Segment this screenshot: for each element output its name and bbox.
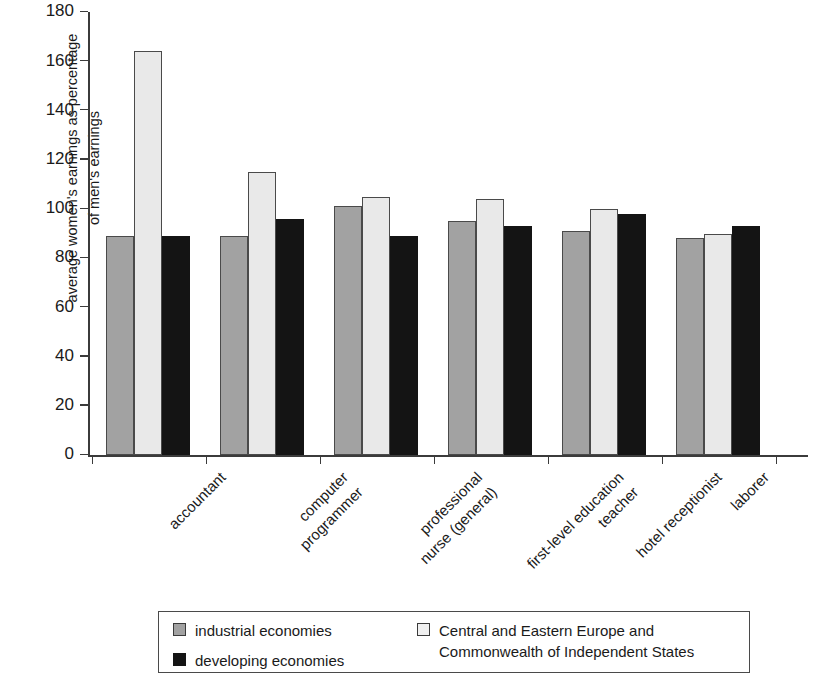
y-tick-label-0: 0 — [65, 444, 74, 464]
bar-industrial-4 — [562, 231, 590, 455]
bar-industrial-1 — [220, 236, 248, 455]
legend-column-right: Central and Eastern Europe andCommonweal… — [417, 620, 743, 671]
y-tick-60: 60 — [80, 306, 88, 307]
legend-left-label-1-line-0: developing economies — [195, 650, 344, 671]
legend-left-item-0: industrial economies — [173, 620, 423, 641]
legend-right-label-0-line-0: Central and Eastern Europe and — [439, 620, 694, 641]
x-category-label-5-line-0: laborer — [726, 467, 774, 515]
x-category-label-0: accountant — [163, 467, 230, 534]
bar-cee-3 — [476, 199, 504, 455]
bar-chart: average women's earnings as percentage o… — [0, 0, 813, 682]
y-tick-20: 20 — [80, 404, 88, 405]
legend-column-left: industrial economiesdeveloping economies — [173, 620, 423, 680]
legend-right-label-0-line-1: Commonwealth of Independent States — [439, 641, 694, 662]
bar-cee-5 — [704, 234, 732, 456]
bar-developing-1 — [276, 219, 304, 455]
legend-swatch-developing — [173, 653, 186, 666]
x-category-label-0-line-0: accountant — [163, 467, 230, 534]
legend-swatch-cee — [417, 623, 430, 636]
bar-industrial-0 — [106, 236, 134, 455]
bar-cee-0 — [134, 51, 162, 455]
legend-right-item-0: Central and Eastern Europe andCommonweal… — [417, 620, 743, 662]
bar-developing-0 — [162, 236, 190, 455]
y-tick-180: 180 — [80, 11, 88, 12]
bar-industrial-5 — [676, 238, 704, 455]
y-tick-120: 120 — [80, 158, 88, 159]
legend: industrial economiesdeveloping economies… — [158, 611, 750, 673]
y-tick-label-20: 20 — [55, 395, 74, 415]
x-axis-category-labels: accountantcomputerprogrammerprofessional… — [88, 455, 808, 600]
bar-developing-4 — [618, 214, 646, 455]
x-category-label-1: computerprogrammer — [280, 467, 367, 554]
bar-cee-2 — [362, 197, 390, 455]
legend-swatch-industrial — [173, 623, 186, 636]
y-tick-0: 0 — [80, 454, 88, 455]
legend-left-label-0-line-0: industrial economies — [195, 620, 332, 641]
y-tick-label-180: 180 — [46, 1, 74, 21]
bar-industrial-2 — [334, 206, 362, 455]
bar-developing-2 — [390, 236, 418, 455]
y-tick-140: 140 — [80, 109, 88, 110]
x-category-label-4-line-0: hotel receptionist — [631, 467, 726, 562]
x-category-label-3: first-level educationteacher — [522, 467, 643, 588]
legend-left-label-1: developing economies — [195, 650, 344, 671]
bar-cee-1 — [248, 172, 276, 455]
legend-right-label-0: Central and Eastern Europe andCommonweal… — [439, 620, 694, 662]
y-tick-label-140: 140 — [46, 100, 74, 120]
y-tick-160: 160 — [80, 60, 88, 61]
y-tick-label-60: 60 — [55, 297, 74, 317]
bar-industrial-3 — [448, 221, 476, 455]
plot-area: 020406080100120140160180 — [88, 12, 808, 455]
y-axis-line — [88, 12, 90, 455]
y-tick-label-160: 160 — [46, 51, 74, 71]
y-tick-label-40: 40 — [55, 346, 74, 366]
y-tick-label-120: 120 — [46, 149, 74, 169]
y-tick-label-80: 80 — [55, 247, 74, 267]
bar-developing-3 — [504, 226, 532, 455]
y-tick-label-100: 100 — [46, 198, 74, 218]
x-category-label-4: hotel receptionist — [631, 467, 726, 562]
bar-cee-4 — [590, 209, 618, 455]
legend-left-item-1: developing economies — [173, 650, 423, 671]
y-tick-100: 100 — [80, 208, 88, 209]
y-tick-40: 40 — [80, 355, 88, 356]
x-category-label-5: laborer — [726, 467, 774, 515]
y-tick-80: 80 — [80, 257, 88, 258]
legend-left-label-0: industrial economies — [195, 620, 332, 641]
bar-developing-5 — [732, 226, 760, 455]
x-category-label-2: professionalnurse (general) — [400, 467, 502, 569]
